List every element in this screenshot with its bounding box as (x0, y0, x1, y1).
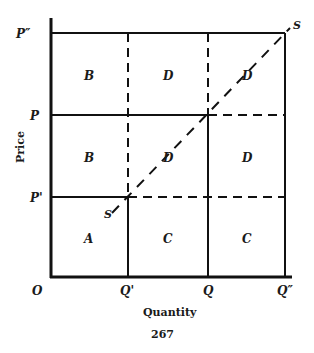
region-bottom-left: A (83, 232, 93, 246)
y-tick-p: P (29, 109, 40, 123)
x-axis-title: Quantity (143, 306, 197, 319)
region-bottom-middle: C (163, 232, 173, 246)
supply-region-diagram: P″ P P' O Q' Q Q″ Quantity Price S S B D… (0, 0, 314, 353)
y-tick-p-double-prime: P″ (15, 27, 31, 41)
x-tick-q-double-prime: Q″ (277, 284, 293, 298)
region-middle-left: B (83, 151, 94, 165)
region-middle-right: D (241, 151, 253, 165)
x-tick-q: Q (203, 284, 214, 298)
region-middle-middle: D (162, 151, 174, 165)
region-top-left: B (83, 69, 94, 83)
region-top-middle: D (162, 69, 174, 83)
supply-curve (112, 28, 290, 213)
y-tick-p-prime: P' (29, 191, 43, 205)
y-axis-title: Price (14, 131, 27, 163)
page-number: 267 (151, 328, 174, 341)
region-bottom-right: C (242, 232, 252, 246)
supply-label-start: S (104, 208, 112, 221)
supply-label-end: S (293, 19, 301, 32)
origin-label: O (32, 284, 43, 298)
x-tick-q-prime: Q' (120, 284, 134, 298)
region-top-right: D (241, 69, 253, 83)
